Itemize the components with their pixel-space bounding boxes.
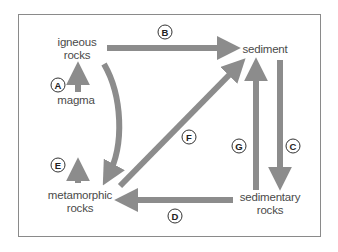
- node-label: magma: [57, 94, 94, 107]
- arrow-f: [120, 66, 238, 186]
- node-sedimentary-rocks: sedimentary rocks: [240, 191, 300, 217]
- node-label: metamorphic: [48, 189, 112, 202]
- badge-d: D: [168, 209, 183, 224]
- badge-e: E: [51, 158, 66, 173]
- node-label: sedimentary: [240, 191, 300, 204]
- node-label: rocks: [48, 202, 112, 215]
- node-magma: magma: [57, 94, 94, 107]
- badge-f: F: [182, 130, 197, 145]
- node-label: rocks: [240, 204, 300, 217]
- badge-b: B: [158, 25, 173, 40]
- badge-a: A: [51, 78, 66, 93]
- node-sediment: sediment: [242, 43, 287, 56]
- node-metamorphic-rocks: metamorphic rocks: [48, 189, 112, 215]
- badge-g: G: [232, 139, 247, 154]
- node-label: igneous: [58, 36, 97, 49]
- node-label: rocks: [58, 49, 97, 62]
- node-label: sediment: [242, 43, 287, 56]
- node-igneous-rocks: igneous rocks: [58, 36, 97, 62]
- arrow-curved: [104, 64, 119, 176]
- badge-c: C: [286, 139, 301, 154]
